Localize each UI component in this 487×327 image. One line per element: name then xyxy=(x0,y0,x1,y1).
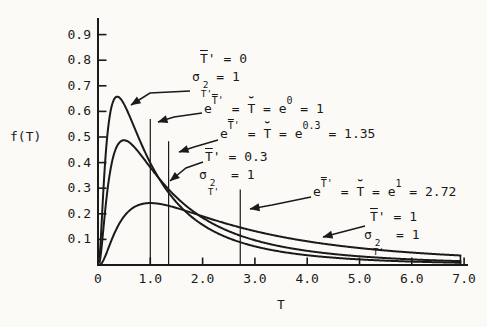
x-tick-label-1.0: 1.0 xyxy=(139,271,162,286)
y-tick-label-0.5: 0.5 xyxy=(55,129,91,145)
breve-mark: ˘ xyxy=(356,177,364,193)
annotation-mu1: T' = 1 σ2T' = 1 xyxy=(364,209,420,256)
mu-line: T' = 0 xyxy=(200,51,247,67)
leader-mu0 xyxy=(131,91,190,105)
y-tick-label-0.6: 0.6 xyxy=(55,103,91,119)
x-tick-label-3.0: 3.0 xyxy=(243,271,266,286)
x-tick-label-2.0: 2.0 xyxy=(191,271,214,286)
y-tick-label-0.2: 0.2 xyxy=(55,206,91,222)
sigma-line: σ2T' = 1 xyxy=(199,167,268,196)
y-tick-label-0.7: 0.7 xyxy=(55,78,91,94)
leader-e1 xyxy=(250,197,311,209)
annotation-mu0: T' = 0 σ2T'= 1 xyxy=(192,51,247,98)
lognormal-density-figure: 01.02.03.04.05.06.07.00.10.20.30.40.50.6… xyxy=(0,0,487,327)
leader-e0 xyxy=(158,113,202,122)
x-tick-label-5.0: 5.0 xyxy=(348,271,371,286)
x-axis-label: T xyxy=(277,297,285,312)
leader-mu1 xyxy=(323,226,365,237)
y-axis-label: f(T) xyxy=(10,129,41,144)
y-tick-label-0.3: 0.3 xyxy=(55,180,91,196)
annotation-median-e0: eT' = ˘T = e0 = 1 xyxy=(204,101,324,117)
x-tick-label-0: 0 xyxy=(94,271,102,286)
x-tick-label-7.0: 7.0 xyxy=(452,271,475,286)
breve-mark: ˘ xyxy=(247,94,255,110)
y-tick-label-0.8: 0.8 xyxy=(55,52,91,68)
annotation-median-e03: eT' = ˘T = e0.3 = 1.35 xyxy=(220,126,375,142)
y-tick-label-0.4: 0.4 xyxy=(55,155,91,171)
sigma-line: σ2T' = 1 xyxy=(364,227,420,256)
y-tick-label-0.1: 0.1 xyxy=(55,231,91,247)
annotation-mu03: T' = 0.3 σ2T' = 1 xyxy=(199,149,268,196)
y-tick-label-0.9: 0.9 xyxy=(55,27,91,43)
annotation-median-e1: eT' = ˘T = e1 = 2.72 xyxy=(313,184,456,200)
mu-line: T' = 1 xyxy=(370,209,420,225)
mu-line: T' = 0.3 xyxy=(205,149,268,165)
x-tick-label-4.0: 4.0 xyxy=(295,271,318,286)
x-tick-label-6.0: 6.0 xyxy=(400,271,423,286)
breve-mark: ˘ xyxy=(263,119,271,135)
sigma-line: σ2T'= 1 xyxy=(192,69,247,98)
